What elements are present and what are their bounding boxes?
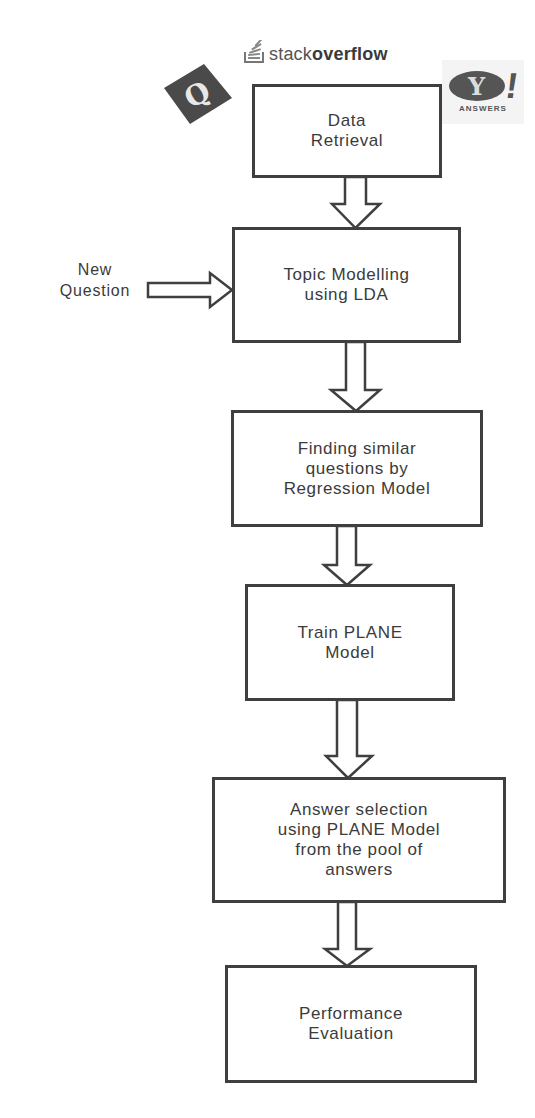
step-label: Data Retrieval (311, 111, 383, 151)
step-performance-evaluation: Performance Evaluation (225, 965, 477, 1083)
step-label: Answer selection using PLANE Model from … (278, 800, 440, 880)
arrow-right-icon (148, 273, 232, 307)
step-data-retrieval: Data Retrieval (252, 84, 442, 178)
step-label: Performance Evaluation (299, 1004, 403, 1044)
arrow-down-icon (332, 177, 380, 228)
step-topic-modelling: Topic Modelling using LDA (232, 227, 461, 343)
arrow-down-icon (331, 342, 380, 411)
new-question-label: New Question (40, 259, 150, 301)
arrow-down-icon (326, 700, 372, 778)
step-label: Topic Modelling using LDA (283, 265, 409, 305)
step-finding-similar-questions: Finding similar questions by Regression … (231, 410, 483, 527)
step-label: Finding similar questions by Regression … (284, 439, 431, 499)
arrow-down-icon (324, 526, 370, 585)
step-label: Train PLANE Model (297, 623, 402, 663)
step-answer-selection: Answer selection using PLANE Model from … (212, 777, 506, 903)
step-train-plane-model: Train PLANE Model (245, 584, 455, 701)
arrow-down-icon (325, 902, 370, 966)
